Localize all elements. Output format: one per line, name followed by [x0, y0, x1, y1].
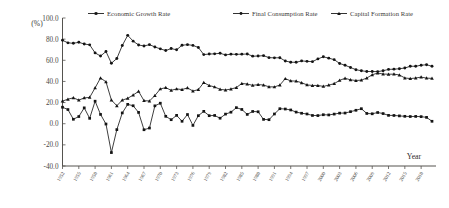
x-tick-label: 1982	[218, 170, 229, 182]
x-tick-label: 1955	[72, 170, 83, 182]
data-point	[164, 115, 167, 118]
data-point	[67, 108, 70, 111]
data-point	[186, 86, 190, 89]
x-tick-label: 1961	[104, 170, 115, 182]
data-point	[230, 111, 233, 114]
data-point	[322, 55, 325, 58]
data-point	[387, 68, 390, 71]
data-point	[115, 128, 118, 131]
data-point	[268, 56, 271, 59]
data-point	[365, 76, 369, 79]
data-point	[115, 57, 118, 60]
data-point	[371, 112, 374, 115]
series-path	[63, 101, 433, 152]
y-axis: 100.080.060.040.020.00.0-20.0-40.0	[42, 15, 65, 171]
data-point	[132, 40, 135, 43]
x-axis: 1952195519581961196419671970197319761979…	[55, 166, 436, 182]
data-point	[202, 81, 206, 84]
x-axis-title: Year	[407, 152, 422, 161]
data-point	[425, 63, 428, 66]
data-point	[273, 113, 276, 116]
data-point	[132, 104, 135, 107]
x-tick-label: 1958	[88, 170, 99, 182]
chart-container: Economic Growth RateFinal Consumption Ra…	[0, 0, 449, 208]
data-point	[219, 52, 222, 55]
data-point	[159, 102, 162, 105]
plot-series	[61, 34, 434, 154]
data-point	[246, 53, 249, 56]
data-point	[99, 113, 102, 116]
data-point	[208, 114, 211, 117]
x-tick-label: 2000	[316, 170, 327, 182]
data-point	[283, 77, 287, 80]
data-point	[181, 44, 184, 47]
data-point	[77, 115, 80, 118]
data-point	[110, 62, 113, 65]
data-point	[344, 112, 347, 115]
data-point	[306, 60, 309, 63]
data-point	[431, 65, 434, 68]
data-point	[110, 151, 113, 154]
data-point	[202, 53, 205, 56]
legend-marker-icon	[95, 12, 98, 15]
data-point	[88, 117, 91, 120]
data-point	[224, 113, 227, 116]
data-point	[365, 70, 368, 73]
data-point	[72, 42, 75, 45]
data-point	[121, 44, 124, 47]
data-point	[300, 112, 303, 115]
data-point	[393, 68, 396, 71]
series-3	[61, 71, 434, 107]
data-point	[72, 118, 75, 121]
y-tick-label: 0.0	[50, 120, 59, 128]
legend: Economic Growth RateFinal Consumption Ra…	[88, 10, 413, 17]
data-point	[338, 62, 341, 65]
data-point	[289, 109, 292, 112]
data-point	[420, 115, 423, 118]
data-point	[137, 111, 140, 114]
data-point	[409, 65, 412, 68]
data-point	[121, 112, 124, 115]
data-point	[126, 97, 130, 100]
data-point	[148, 43, 151, 46]
data-point	[126, 103, 129, 106]
data-point	[83, 107, 86, 110]
data-point	[343, 76, 347, 79]
data-point	[262, 54, 265, 57]
data-point	[284, 108, 287, 111]
data-point	[262, 118, 265, 121]
data-point	[208, 53, 211, 56]
data-point	[170, 47, 173, 50]
legend-label: Final Consumption Rate	[252, 10, 318, 17]
data-point	[425, 116, 428, 119]
x-tick-label: 1979	[202, 170, 213, 182]
x-tick-label: 1970	[153, 170, 164, 182]
x-tick-label: 1964	[120, 170, 131, 182]
series-path	[63, 73, 433, 106]
data-point	[219, 117, 222, 120]
data-point	[148, 127, 151, 130]
data-point	[279, 107, 282, 110]
data-point	[431, 120, 434, 123]
data-point	[197, 114, 200, 117]
data-point	[354, 68, 357, 71]
data-point	[295, 61, 298, 64]
data-point	[213, 114, 216, 117]
x-tick-label: 1988	[251, 170, 262, 182]
data-point	[382, 69, 385, 72]
data-point	[110, 98, 114, 101]
data-point	[99, 55, 102, 58]
series-2	[61, 34, 433, 73]
data-point	[159, 47, 162, 50]
data-point	[137, 44, 140, 47]
data-point	[409, 115, 412, 118]
data-point	[72, 96, 76, 99]
x-tick-label: 2006	[349, 170, 360, 182]
data-point	[327, 114, 330, 117]
data-point	[192, 124, 195, 127]
data-point	[153, 46, 156, 49]
data-point	[376, 111, 379, 114]
data-point	[251, 55, 254, 58]
x-tick-label: 2018	[414, 170, 425, 182]
data-point	[268, 118, 271, 121]
